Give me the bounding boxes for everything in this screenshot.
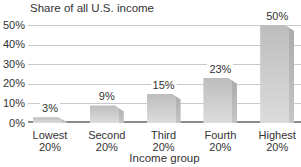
y-tick-label: 40% — [0, 38, 25, 51]
income-share-bar-chart: Share of all U.S. income 0%10%20%30%40%5… — [0, 0, 301, 167]
y-tick-label: 50% — [0, 19, 25, 32]
x-category-label: Second20% — [88, 129, 125, 153]
x-category-label: Highest20% — [259, 129, 296, 153]
gridline — [28, 64, 301, 65]
bar — [90, 105, 124, 123]
x-category-label: Third20% — [151, 129, 176, 153]
x-axis-title: Income group — [28, 152, 301, 164]
x-category-label: Lowest20% — [33, 129, 68, 153]
bar-value-label: 23% — [207, 63, 233, 75]
y-tick-label: 20% — [0, 77, 25, 90]
bar-value-label: 9% — [97, 90, 117, 102]
bar-value-label: 15% — [151, 79, 177, 91]
bar — [203, 78, 237, 123]
bar — [147, 94, 181, 123]
y-tick-label: 30% — [0, 58, 25, 71]
y-tick-label: 10% — [0, 97, 25, 110]
bar-value-label: 3% — [40, 102, 60, 114]
bar — [33, 117, 67, 123]
chart-title: Share of all U.S. income — [30, 2, 154, 14]
gridline — [28, 25, 301, 26]
gridline — [28, 45, 301, 46]
bar — [260, 25, 294, 123]
plot-area: 3%9%15%23%50% — [28, 25, 301, 123]
y-tick-label: 0% — [0, 117, 25, 130]
bar-value-label: 50% — [264, 10, 290, 22]
x-category-label: Fourth20% — [204, 129, 236, 153]
